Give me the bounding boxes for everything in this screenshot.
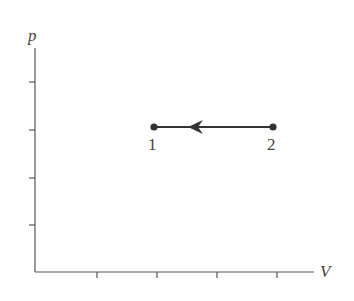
state-point-1: 1 <box>148 123 158 154</box>
y-axis-label: p <box>27 26 37 45</box>
pv-diagram: p V 1 2 <box>0 0 354 301</box>
state-dot <box>269 123 276 130</box>
state-dot <box>150 123 157 130</box>
process-path <box>154 120 273 134</box>
state-label: 1 <box>148 135 157 154</box>
state-label: 2 <box>267 135 276 154</box>
axes: p V <box>27 26 333 281</box>
x-axis-label: V <box>320 262 333 281</box>
